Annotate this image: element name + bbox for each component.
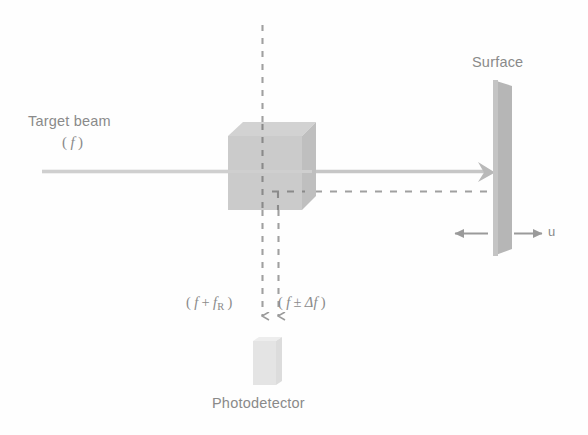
paren-close: ) <box>228 294 233 310</box>
detector-beam-layer <box>263 210 279 316</box>
beam-splitter-cube <box>228 122 316 210</box>
photodetector-body <box>253 337 282 385</box>
operator-plus: + <box>201 294 209 310</box>
frequency-symbol-f: f <box>70 134 74 150</box>
doppler-frequency-label: ( f ± Δf ) <box>278 294 326 311</box>
photodetector-front-face <box>253 341 276 385</box>
photodetector-label: Photodetector <box>212 395 305 411</box>
target-beam-label: Target beam <box>28 113 111 129</box>
symbol-f-delta: f <box>313 294 317 310</box>
operator-plus-minus: ± <box>293 294 301 310</box>
interferometer-diagram: Target beam ( f ) Surface u Photodetecto… <box>0 0 588 435</box>
photodetector-side-face <box>276 337 282 385</box>
cube-right-face <box>302 122 316 210</box>
subscript-r: R <box>217 301 224 312</box>
paren-open: ( <box>186 294 191 310</box>
target-beam-frequency-label: ( f ) <box>62 134 83 151</box>
cube-top-face <box>228 122 316 136</box>
symbol-f: f <box>286 294 290 310</box>
target-surface-bar <box>493 80 512 256</box>
surface-bar-edge <box>493 80 498 256</box>
velocity-label: u <box>548 224 555 239</box>
symbol-f: f <box>194 294 198 310</box>
paren-open: ( <box>278 294 283 310</box>
surface-label: Surface <box>472 54 523 70</box>
reference-frequency-label: ( f + fR ) <box>186 294 233 312</box>
paren-close: ) <box>321 294 326 310</box>
